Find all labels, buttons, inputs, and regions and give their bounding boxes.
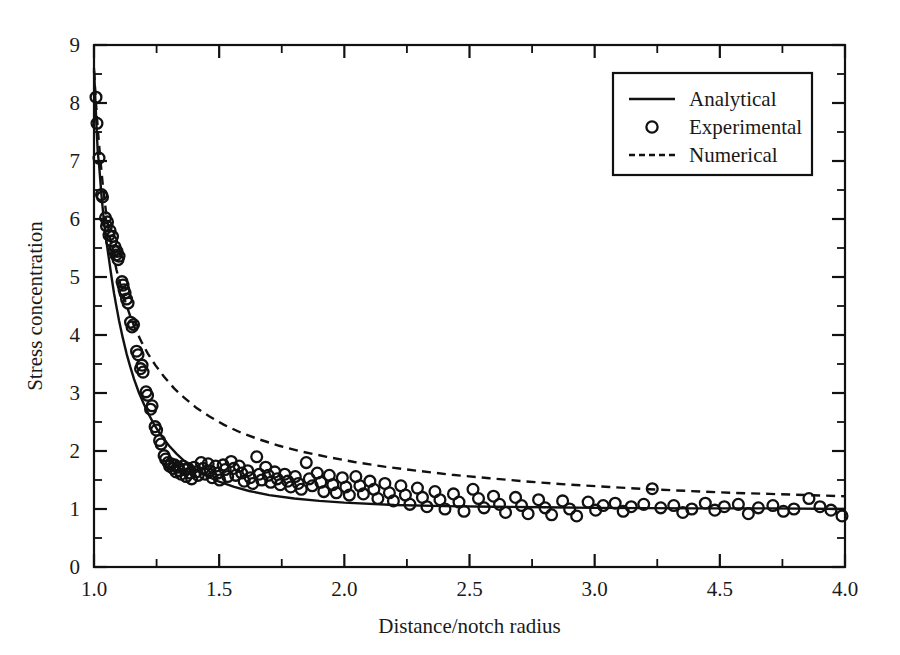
y-tick-label: 3 — [70, 381, 81, 405]
y-axis-tick-labels: 0123456789 — [70, 33, 81, 579]
data-point-experimental — [251, 451, 262, 462]
x-tick-label: 1.5 — [206, 577, 232, 601]
y-tick-label: 4 — [70, 323, 81, 347]
figure-container: 0123456789 1.01.52.02.53.04.54.0 Stress … — [0, 0, 900, 655]
legend-label-analytical: Analytical — [689, 87, 777, 111]
y-tick-label: 6 — [70, 207, 81, 231]
y-tick-label: 8 — [70, 91, 81, 115]
data-point-experimental — [804, 493, 815, 504]
y-tick-label: 2 — [70, 439, 81, 463]
y-tick-label: 5 — [70, 265, 81, 289]
legend-label-experimental: Experimental — [689, 115, 802, 139]
y-tick-label: 0 — [70, 555, 81, 579]
data-point-experimental — [500, 507, 511, 518]
x-axis-tick-labels: 1.01.52.02.53.04.54.0 — [81, 577, 858, 601]
y-tick-label: 9 — [70, 33, 81, 57]
legend-label-numerical: Numerical — [689, 143, 778, 167]
x-axis-title-text: Distance/notch radius — [378, 614, 561, 638]
x-tick-label: 3.0 — [582, 577, 608, 601]
x-tick-label: 4.0 — [832, 577, 858, 601]
stress-concentration-chart: 0123456789 1.01.52.02.53.04.54.0 Stress … — [0, 0, 900, 655]
data-point-experimental — [826, 505, 837, 516]
data-point-experimental — [459, 506, 470, 517]
y-axis-title-text: Stress concentration — [23, 221, 47, 391]
y-tick-label: 1 — [70, 497, 81, 521]
data-point-experimental — [546, 509, 557, 520]
chart-legend: AnalyticalExperimentalNumerical — [613, 73, 812, 175]
data-point-experimental — [372, 493, 383, 504]
x-tick-label: 4.5 — [707, 577, 733, 601]
x-axis-title: Distance/notch radius — [378, 614, 561, 638]
x-tick-label: 2.0 — [331, 577, 357, 601]
y-tick-label: 7 — [70, 149, 81, 173]
y-axis-title: Stress concentration — [23, 221, 47, 391]
data-point-experimental — [301, 457, 312, 468]
data-point-experimental — [571, 511, 582, 522]
data-point-experimental — [479, 502, 490, 513]
x-tick-label: 2.5 — [456, 577, 482, 601]
data-point-experimental — [815, 501, 826, 512]
data-point-experimental — [719, 501, 730, 512]
data-point-experimental — [700, 498, 711, 509]
data-point-experimental — [523, 508, 534, 519]
x-tick-label: 1.0 — [81, 577, 107, 601]
